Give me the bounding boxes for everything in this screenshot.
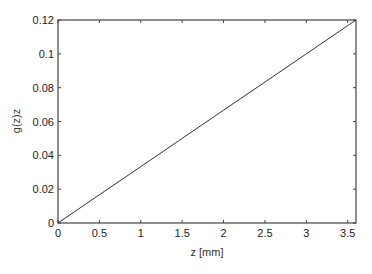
y-tick-label: 0.08	[33, 82, 54, 94]
y-tick-label: 0.06	[33, 116, 54, 128]
y-axis: 00.020.040.060.080.10.12	[33, 14, 356, 229]
x-tick-label: 3	[303, 227, 309, 239]
x-tick-label: 0.5	[92, 227, 107, 239]
y-tick-label: 0.02	[33, 183, 54, 195]
x-tick-label: 2	[220, 227, 226, 239]
x-tick-label: 0	[55, 227, 61, 239]
data-line	[58, 20, 356, 223]
x-axis: 00.511.522.533.5	[55, 20, 355, 239]
x-tick-label: 2.5	[257, 227, 272, 239]
y-tick-label: 0.04	[33, 149, 54, 161]
y-tick-label: 0	[48, 217, 54, 229]
x-axis-label: z [mm]	[191, 246, 224, 258]
x-tick-label: 3.5	[340, 227, 355, 239]
y-tick-label: 0.12	[33, 14, 54, 26]
x-tick-label: 1	[138, 227, 144, 239]
line-chart: 00.511.522.533.5 00.020.040.060.080.10.1…	[0, 0, 372, 274]
y-tick-label: 0.1	[39, 48, 54, 60]
y-axis-label: g(z)z	[10, 109, 22, 133]
x-tick-label: 1.5	[175, 227, 190, 239]
